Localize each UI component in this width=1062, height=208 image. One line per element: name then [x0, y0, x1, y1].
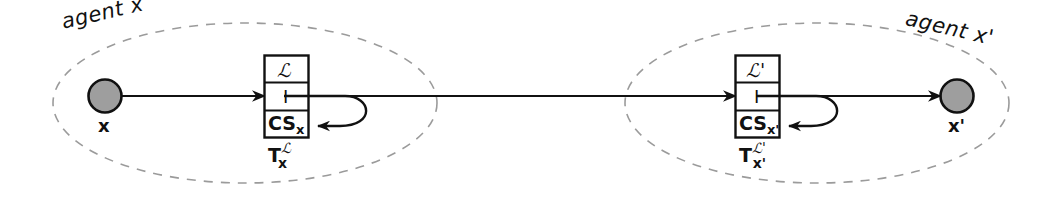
box-left-row-i: I: [283, 88, 288, 106]
caption-right-superscript: ℒ': [752, 140, 766, 156]
caption-right-subscript: x': [753, 155, 766, 171]
caption-left-subscript: x: [278, 155, 287, 171]
caption-right-base: T: [739, 144, 752, 166]
box-left-row-cs: CSx: [268, 114, 304, 136]
box-right-row-cs-text: CS: [739, 112, 767, 134]
box-right-row-lang: ℒ': [746, 61, 765, 80]
box-left-row-cs-subscript: x: [296, 122, 304, 137]
agent-node-x-prime: [941, 80, 974, 113]
diagram-vector-layer: [0, 0, 1062, 208]
box-right-row-cs: CSx': [739, 114, 779, 136]
box-right-caption: Tℒ'x': [739, 146, 779, 165]
box-left-row-cs-text: CS: [268, 112, 296, 134]
box-left-caption: Tℒx: [268, 146, 300, 165]
node-label-x-prime: x': [948, 117, 965, 135]
box-right-row-i: I: [754, 88, 759, 106]
diagram-canvas: agent x agent x' x x' ℒ I CSx Tℒx ℒ' I C…: [0, 0, 1062, 208]
caption-left-superscript: ℒ: [281, 140, 291, 156]
node-label-x: x: [98, 117, 110, 135]
box-right-row-cs-subscript: x': [767, 122, 779, 137]
box-left-row-lang: ℒ: [277, 61, 291, 80]
agent-node-x: [89, 80, 122, 113]
